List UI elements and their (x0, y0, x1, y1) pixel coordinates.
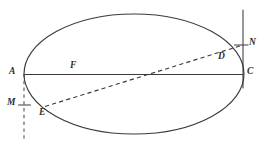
point-label-C: C (247, 67, 253, 77)
dashed-chord-E-F-D-N (45, 45, 243, 107)
point-label-N: N (249, 38, 256, 48)
point-label-A: A (9, 67, 15, 77)
point-label-D: D (218, 52, 225, 62)
point-label-E: E (39, 108, 45, 118)
geometry-figure: A F C D N E M (0, 0, 267, 147)
point-label-M: M (7, 98, 15, 108)
ellipse-diagram-canvas (0, 0, 267, 147)
point-label-F: F (70, 61, 76, 71)
